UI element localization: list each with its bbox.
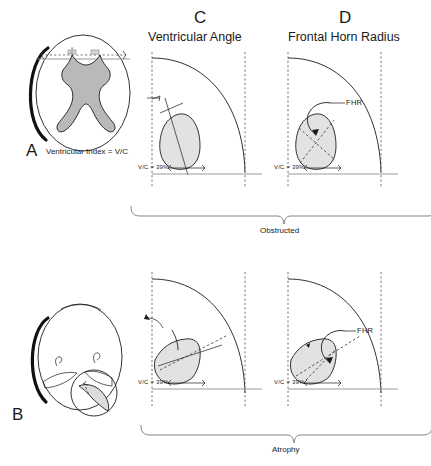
atrophy-bracket xyxy=(0,0,431,466)
figure-root: V C A Ventricular Index = V/C B C Ventri… xyxy=(0,0,431,466)
bracket-label-atrophy: Atrophy xyxy=(272,445,300,454)
